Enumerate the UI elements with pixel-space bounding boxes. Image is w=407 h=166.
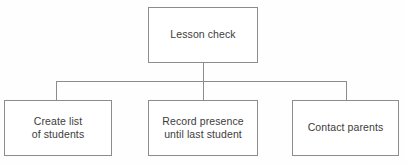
node-record-presence-label: Record presence until last student [158,115,247,142]
node-lesson-check-label: Lesson check [166,28,239,42]
node-contact-parents[interactable]: Contact parents [292,100,399,156]
connector-root-stem [203,63,204,101]
node-create-list-of-students-label: Create list of students [28,115,88,142]
node-create-list-of-students[interactable]: Create list of students [4,100,112,156]
connector-drop-right [346,81,347,101]
connector-drop-left [56,81,57,101]
node-contact-parents-label: Contact parents [304,121,388,135]
connector-horizontal-bus [56,81,347,82]
node-lesson-check[interactable]: Lesson check [148,7,258,63]
diagram-canvas: Lesson check Create list of students Rec… [0,0,407,166]
node-record-presence[interactable]: Record presence until last student [148,100,258,156]
